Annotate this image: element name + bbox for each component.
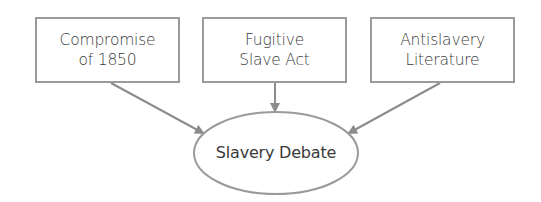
cause-label-line1: Fugitive: [239, 30, 309, 50]
arrow-compromise-to-debate: [111, 83, 203, 133]
cause-label-line2: Slave Act: [239, 50, 309, 70]
arrow-literature-to-debate: [349, 83, 440, 133]
effect-label: Slavery Debate: [193, 143, 359, 162]
cause-box-antislavery-literature: Antislavery Literature: [370, 17, 515, 83]
cause-label-line2: of 1850: [60, 50, 156, 70]
cause-label-line1: Compromise: [60, 30, 156, 50]
cause-label-line2: Literature: [400, 50, 485, 70]
cause-box-fugitive-slave-act: Fugitive Slave Act: [202, 17, 347, 83]
cause-box-compromise: Compromise of 1850: [35, 17, 180, 83]
cause-label-line1: Antislavery: [400, 30, 485, 50]
